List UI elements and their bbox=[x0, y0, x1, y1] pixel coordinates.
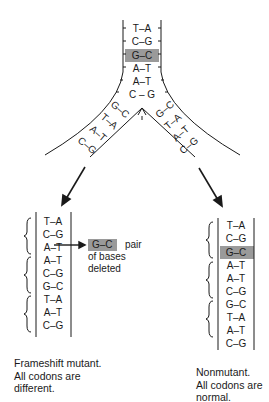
base-pair: C–G bbox=[43, 320, 64, 331]
base-pair: A–T bbox=[133, 76, 151, 87]
caption-line: Frameshift mutant. bbox=[14, 357, 102, 370]
callout-line-3: deleted bbox=[88, 263, 121, 275]
deleted-pair-box: G–C bbox=[88, 239, 117, 251]
base-pair: C–G bbox=[43, 268, 64, 279]
base-pair: T–A bbox=[227, 312, 246, 323]
caption-line: different. bbox=[14, 382, 102, 395]
left-arm-pairs: G–C T–A A–T C–G bbox=[76, 98, 132, 156]
base-pair: A–T bbox=[44, 307, 62, 318]
base-pair: T–A bbox=[44, 294, 63, 305]
arrows bbox=[62, 167, 222, 206]
nonmutant-pairs: T–A C–G G–C A–T A–T C–G G–C T–A A–T C–G bbox=[226, 220, 247, 349]
base-pair: T–A bbox=[44, 216, 63, 227]
base-pair: A–T bbox=[227, 273, 245, 284]
base-pair: A–T bbox=[44, 255, 62, 266]
nonmutant-caption: Nonmutant. All codons are normal. bbox=[196, 366, 263, 402]
frameshift-pairs: T–A C–G A–T A–T C–G G–C T–A A–T C–G bbox=[43, 216, 64, 331]
callout-line-2: of bases bbox=[88, 251, 126, 263]
base-pair: A–T bbox=[44, 242, 62, 253]
base-pair: C – G bbox=[129, 89, 155, 100]
base-pair: C–G bbox=[226, 233, 247, 244]
base-pair-highlighted: G–C bbox=[132, 50, 153, 61]
base-pair: A–T bbox=[227, 325, 245, 336]
base-pair: T–A bbox=[133, 23, 152, 34]
base-pair: A–T bbox=[227, 260, 245, 271]
caption-line: normal. bbox=[196, 391, 263, 402]
base-pair: C–G bbox=[226, 286, 247, 297]
base-pair: C–G bbox=[132, 36, 153, 47]
frameshift-caption: Frameshift mutant. All codons are differ… bbox=[14, 357, 102, 395]
base-pair: A–T bbox=[133, 63, 151, 74]
callout-pair-word: pair bbox=[125, 239, 142, 251]
base-pair: G–C bbox=[226, 299, 247, 310]
base-pair: C–G bbox=[226, 338, 247, 349]
right-arm-pairs: G–C T–A A–T C–G bbox=[153, 98, 200, 156]
base-pair-highlighted: G–C bbox=[226, 247, 247, 258]
base-pair: T–A bbox=[227, 220, 246, 231]
replication-diagram: T–A C–G G–C A–T A–T C – G G–C T–A A–T C–… bbox=[0, 0, 269, 402]
caption-line: Nonmutant. bbox=[196, 366, 263, 379]
base-pair: G–C bbox=[43, 281, 64, 292]
caption-line: All codons are bbox=[196, 379, 263, 392]
base-pair: C–G bbox=[43, 229, 64, 240]
caption-line: All codons are bbox=[14, 370, 102, 383]
